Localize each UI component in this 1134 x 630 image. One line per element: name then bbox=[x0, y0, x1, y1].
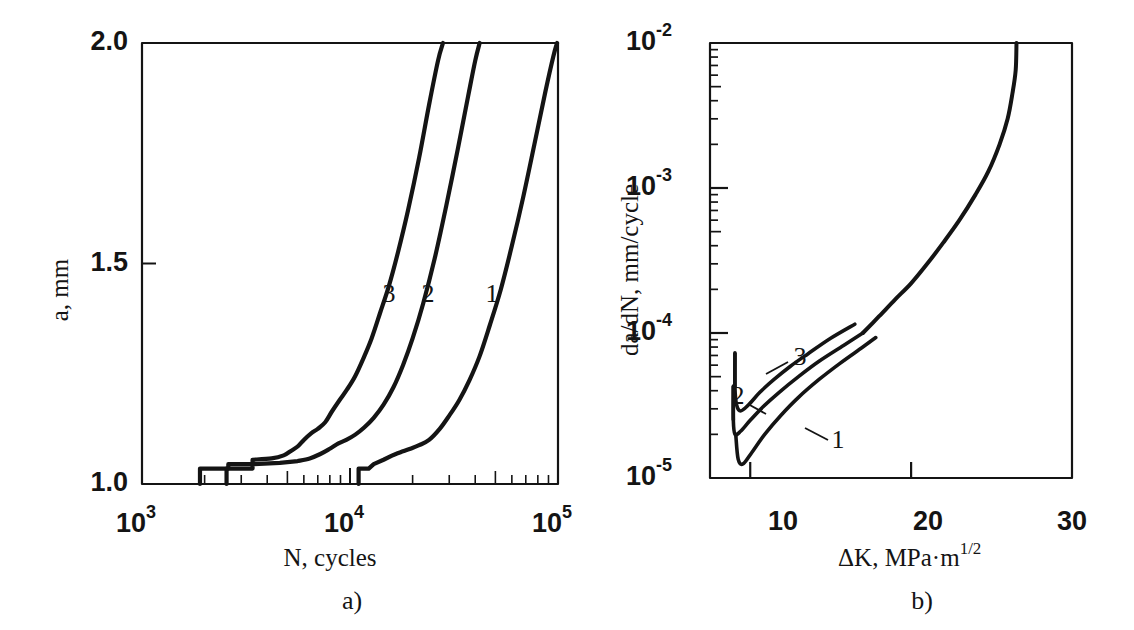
x-tick-label: 105 bbox=[532, 502, 572, 538]
curve-label-1: 1 bbox=[486, 279, 499, 308]
panel-b-caption: b) bbox=[911, 586, 933, 615]
curve-label-2: 2 bbox=[732, 381, 745, 410]
x-tick-label: 20 bbox=[913, 506, 943, 536]
panel-b: 10203010-210-310-410-5ΔK, MPa·m1/2da/dN,… bbox=[616, 20, 1087, 615]
y-tick-label: 10-2 bbox=[626, 20, 672, 56]
curve-1 bbox=[359, 43, 557, 484]
x-tick-label: 104 bbox=[324, 502, 364, 538]
x-tick-label: 30 bbox=[1057, 506, 1087, 536]
y-tick-label: 10-5 bbox=[626, 455, 672, 491]
curve-master bbox=[863, 43, 1017, 333]
y-axis-label: da/dN, mm/cycle bbox=[616, 184, 643, 356]
y-axis-label: a, mm bbox=[46, 258, 73, 321]
panel-a: 1031041052.01.51.0N, cyclesa, mm321a) bbox=[46, 26, 572, 615]
y-tick-label: 1.0 bbox=[90, 467, 128, 497]
y-tick-label: 1.5 bbox=[90, 247, 128, 277]
curve-label-3: 3 bbox=[794, 342, 807, 371]
curve-label-2: 2 bbox=[422, 279, 435, 308]
x-tick-label: 103 bbox=[116, 502, 156, 538]
curve-3 bbox=[200, 43, 443, 484]
y-tick-label: 2.0 bbox=[90, 26, 128, 56]
curve-label-3: 3 bbox=[383, 279, 396, 308]
figure-container: 1031041052.01.51.0N, cyclesa, mm321a)102… bbox=[0, 0, 1134, 630]
fatigue-crack-growth-figure: 1031041052.01.51.0N, cyclesa, mm321a)102… bbox=[0, 0, 1134, 630]
curve-label-1: 1 bbox=[832, 425, 845, 454]
panel-a-caption: a) bbox=[342, 586, 362, 615]
x-axis-label: ΔK, MPa·m1/2 bbox=[838, 539, 981, 571]
panel-a-frame bbox=[142, 43, 558, 484]
x-tick-label: 10 bbox=[768, 506, 798, 536]
curve-2 bbox=[227, 43, 480, 484]
leader-line-1 bbox=[805, 428, 828, 440]
x-axis-label: N, cycles bbox=[283, 544, 376, 571]
